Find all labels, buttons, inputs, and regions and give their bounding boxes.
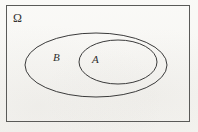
venn-diagram-canvas [0, 0, 198, 132]
set-a-ellipse [79, 40, 157, 84]
set-diagram-figure: Ω B A [0, 0, 198, 132]
set-a-label: A [92, 54, 99, 65]
set-b-ellipse [25, 33, 167, 97]
set-b-label: B [53, 52, 60, 63]
universal-set-label: Ω [13, 12, 22, 24]
